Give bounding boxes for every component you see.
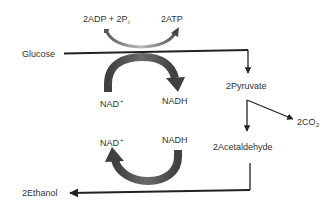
acetaldehyde-label: 2Acetaldehyde [213,142,273,152]
nad-bottom-label: NAD+ [100,135,124,148]
atp-curved-arrow [104,27,179,47]
pyruvate-branch-arrows [247,100,293,131]
nadh-top-label: NADH [162,96,188,106]
atp-label: 2ATP [161,14,183,24]
glucose-label: Glucose [22,49,55,59]
pyruvate-label: 2Pyruvate [226,81,267,91]
nadh-to-nad-thick-arrow [105,147,178,181]
adp-pi-label: 2ADP + 2Pi [83,14,129,27]
fermentation-diagram: 2ADP + 2Pi 2ATP Glucose NAD+ NADH 2Pyruv… [0,0,336,211]
ethanol-label: 2Ethanol [22,188,58,198]
nadh-bottom-label: NADH [162,135,188,145]
nad-top-label: NAD+ [100,96,124,109]
co2-label: 2CO2 [297,117,319,130]
nad-to-nadh-thick-arrow [108,57,185,92]
